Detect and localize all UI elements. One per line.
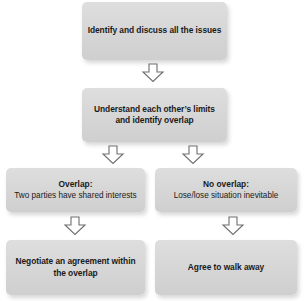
flow-node-overlap-heading: Overlap: (11, 179, 140, 190)
flow-node-no-overlap-heading: No overlap: (160, 179, 292, 190)
flow-node-understand-label: Understand each other’s limits and ident… (87, 104, 222, 127)
flowchart-diagram: Identify and discuss all the issues Unde… (0, 0, 306, 301)
flow-node-overlap-detail: Two parties have shared interests (11, 190, 140, 201)
down-arrow-icon (101, 145, 125, 165)
flow-node-understand: Understand each other’s limits and ident… (82, 88, 227, 142)
flow-node-negotiate: Negotiate an agreement within the overla… (6, 240, 145, 295)
flow-node-identify-label: Identify and discuss all the issues (87, 25, 222, 37)
flow-node-walk-away: Agree to walk away (155, 240, 297, 295)
flow-node-identify: Identify and discuss all the issues (82, 2, 227, 60)
flow-node-no-overlap: No overlap: Lose/lose situation inevitab… (155, 168, 297, 212)
down-arrow-icon (221, 216, 245, 236)
flow-node-no-overlap-stack: No overlap: Lose/lose situation inevitab… (160, 179, 292, 201)
down-arrow-icon (63, 216, 87, 236)
flow-node-negotiate-label: Negotiate an agreement within the overla… (11, 256, 140, 279)
flow-node-overlap-stack: Overlap: Two parties have shared interes… (11, 179, 140, 201)
down-arrow-icon (181, 145, 205, 165)
down-arrow-icon (141, 63, 165, 83)
flow-node-overlap: Overlap: Two parties have shared interes… (6, 168, 145, 212)
flow-node-walk-away-label: Agree to walk away (160, 262, 292, 273)
flow-node-no-overlap-detail: Lose/lose situation inevitable (160, 190, 292, 201)
